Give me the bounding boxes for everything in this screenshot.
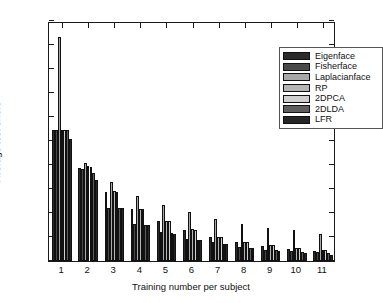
bar — [330, 255, 333, 261]
legend-item[interactable]: 2DLDA — [283, 104, 378, 115]
legend-label: 2DLDA — [315, 105, 344, 114]
bar — [225, 244, 228, 261]
legend-item[interactable]: RP — [283, 83, 378, 94]
x-tick-label: 5 — [151, 265, 179, 275]
bar — [199, 240, 202, 261]
x-tick-label: 9 — [256, 265, 284, 275]
legend-label: RP — [315, 84, 328, 93]
bar-group — [209, 23, 228, 261]
bar-group — [183, 23, 202, 261]
legend-swatch-icon — [283, 116, 310, 124]
x-tick-label: 10 — [282, 265, 310, 275]
legend-item[interactable]: Laplacianface — [283, 72, 378, 83]
bar-group — [105, 23, 124, 261]
legend-swatch-icon — [283, 63, 310, 71]
bar-group — [78, 23, 97, 261]
legend-swatch-icon — [283, 95, 310, 103]
legend-swatch-icon — [283, 73, 310, 81]
bar — [95, 180, 98, 261]
legend-item[interactable]: Fisherface — [283, 62, 378, 73]
x-tick-label: 6 — [178, 265, 206, 275]
x-tick-label: 3 — [99, 265, 127, 275]
bar-group — [131, 23, 150, 261]
legend-swatch-icon — [283, 52, 310, 60]
bar — [173, 234, 176, 261]
legend-label: 2DPCA — [315, 94, 345, 103]
legend-label: Eigenface — [315, 52, 355, 61]
bar-group — [157, 23, 176, 261]
legend-label: Laplacianface — [315, 73, 371, 82]
bar — [252, 248, 255, 261]
bar — [278, 251, 281, 261]
x-axis-title: Training number per subject — [132, 281, 250, 292]
plot-area: EigenfaceFisherfaceLaplacianfaceRP2DPCA2… — [48, 22, 335, 262]
y-tick — [329, 20, 334, 21]
legend-label: Fisherface — [315, 62, 357, 71]
x-tick-label: 11 — [308, 265, 336, 275]
x-tick-label: 2 — [73, 265, 101, 275]
bar — [304, 253, 307, 261]
x-tick-label: 8 — [230, 265, 258, 275]
bar — [147, 225, 150, 261]
x-tick-label: 7 — [204, 265, 232, 275]
legend-label: LFR — [315, 115, 332, 124]
legend: EigenfaceFisherfaceLaplacianfaceRP2DPCA2… — [279, 47, 383, 129]
x-tick-label: 1 — [47, 265, 75, 275]
legend-item[interactable]: LFR — [283, 115, 378, 126]
y-tick — [49, 20, 54, 21]
y-axis-title: Average test errors — [0, 102, 2, 183]
legend-item[interactable]: Eigenface — [283, 51, 378, 62]
legend-item[interactable]: 2DPCA — [283, 93, 378, 104]
legend-swatch-icon — [283, 105, 310, 113]
bar — [69, 139, 72, 261]
x-tick-label: 4 — [125, 265, 153, 275]
bar-group — [261, 23, 280, 261]
bar-group — [235, 23, 254, 261]
bar-group — [52, 23, 71, 261]
legend-swatch-icon — [283, 84, 310, 92]
bar — [121, 208, 124, 261]
